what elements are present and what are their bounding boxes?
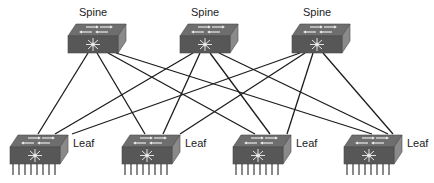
link-spine-3-leaf-3 bbox=[287, 53, 313, 134]
switch-icon bbox=[233, 135, 291, 164]
port-pins-icon bbox=[236, 164, 278, 175]
switch-icon bbox=[10, 135, 68, 164]
link-spine-2-leaf-1 bbox=[55, 53, 193, 134]
leaf-switch-3[interactable] bbox=[233, 135, 291, 175]
link-spine-2-leaf-3 bbox=[210, 53, 270, 134]
leaf-switch-1[interactable] bbox=[10, 135, 68, 175]
leaf-1-label: Leaf bbox=[73, 137, 95, 149]
spine-switch-3[interactable] bbox=[292, 24, 350, 53]
switch-icon bbox=[344, 135, 402, 164]
link-spine-3-leaf-2 bbox=[180, 53, 305, 134]
spine-switch-2[interactable] bbox=[180, 24, 238, 53]
link-spine-1-leaf-2 bbox=[97, 53, 145, 134]
spine-2-label: Spine bbox=[191, 6, 219, 18]
spine-3-label: Spine bbox=[303, 6, 331, 18]
spine-1-label: Spine bbox=[79, 6, 107, 18]
spine-switch-1[interactable] bbox=[68, 24, 126, 53]
links bbox=[38, 53, 393, 134]
link-spine-2-leaf-2 bbox=[163, 53, 200, 134]
port-pins-icon bbox=[125, 164, 167, 175]
port-pins-icon bbox=[13, 164, 55, 175]
switch-icon bbox=[122, 135, 180, 164]
link-spine-1-leaf-1 bbox=[38, 53, 88, 134]
port-pins-icon bbox=[347, 164, 389, 175]
spine-leaf-diagram: Spine Spine Spine Leaf Leaf Leaf Leaf bbox=[0, 0, 434, 183]
switch-icon bbox=[180, 24, 238, 53]
switch-icon bbox=[292, 24, 350, 53]
switch-icon bbox=[68, 24, 126, 53]
leaf-switch-4[interactable] bbox=[344, 135, 402, 175]
leaf-3-label: Leaf bbox=[296, 137, 318, 149]
leaf-2-label: Leaf bbox=[185, 137, 207, 149]
leaf-switch-2[interactable] bbox=[122, 135, 180, 175]
leaf-4-label: Leaf bbox=[407, 137, 429, 149]
link-spine-3-leaf-1 bbox=[72, 53, 300, 134]
